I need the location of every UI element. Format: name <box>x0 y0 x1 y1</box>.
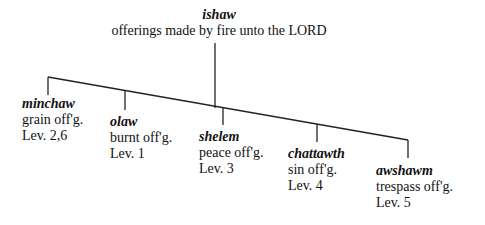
node-shelem: shelem peace off'g. Lev. 3 <box>199 129 263 177</box>
term: minchaw <box>22 96 83 112</box>
reference: Lev. 5 <box>376 195 453 211</box>
node-awshawm: awshawm trespass off'g. Lev. 5 <box>376 163 453 211</box>
root-term: ishaw <box>110 7 328 23</box>
description: peace off'g. <box>199 145 263 161</box>
term: chattawth <box>288 146 345 162</box>
term: awshawm <box>376 163 453 179</box>
reference: Lev. 1 <box>110 146 172 162</box>
reference: Lev. 3 <box>199 161 263 177</box>
term: shelem <box>199 129 263 145</box>
term: olaw <box>110 114 172 130</box>
reference: Lev. 2,6 <box>22 128 83 144</box>
node-chattawth: chattawth sin off'g. Lev. 4 <box>288 146 345 194</box>
reference: Lev. 4 <box>288 178 345 194</box>
description: burnt off'g. <box>110 130 172 146</box>
node-minchaw: minchaw grain off'g. Lev. 2,6 <box>22 96 83 144</box>
description: sin off'g. <box>288 162 345 178</box>
root-description: offerings made by fire unto the LORD <box>110 23 328 39</box>
description: grain off'g. <box>22 112 83 128</box>
root-node: ishaw offerings made by fire unto the LO… <box>110 7 328 39</box>
node-olaw: olaw burnt off'g. Lev. 1 <box>110 114 172 162</box>
description: trespass off'g. <box>376 179 453 195</box>
offerings-tree-diagram: ishaw offerings made by fire unto the LO… <box>0 0 485 225</box>
